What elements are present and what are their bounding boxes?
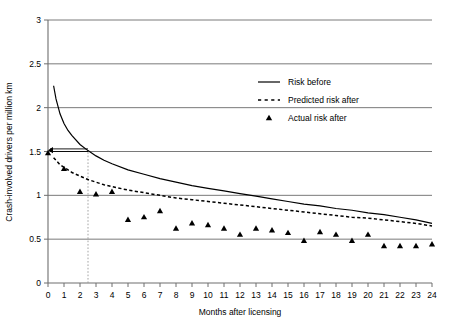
data-point-marker (189, 220, 195, 225)
x-axis-group: 0123456789101112131415161718192021222324 (46, 283, 437, 300)
x-tick-label-21: 21 (379, 290, 389, 300)
data-point-marker (77, 188, 83, 193)
y-tick-label-3: 3 (36, 15, 41, 25)
data-point-marker (93, 191, 99, 196)
chart-canvas: 00.511.522.53 01234567891011121314151617… (0, 0, 453, 325)
x-axis-title-group: Months after licensing (199, 307, 282, 317)
x-tick-label-0: 0 (46, 290, 51, 300)
x-tick-label-12: 12 (235, 290, 245, 300)
data-point-marker (397, 243, 403, 248)
data-point-marker (109, 188, 115, 193)
x-tick-label-11: 11 (220, 290, 229, 300)
legend-label: Risk before (288, 77, 331, 87)
x-tick-label-24: 24 (427, 290, 437, 300)
series-actual-risk-after-markers (45, 150, 435, 248)
x-tick-label-5: 5 (126, 290, 131, 300)
data-point-marker (301, 238, 307, 243)
x-tick-label-13: 13 (251, 290, 261, 300)
data-point-marker (413, 243, 419, 248)
x-tick-label-18: 18 (331, 290, 341, 300)
y-tick-label-2.5: 2.5 (29, 59, 41, 69)
y-axis-title-group: Crash-involved drivers per million km (4, 82, 14, 221)
legend-item-risk-before: Risk before (258, 77, 331, 87)
x-tick-label-6: 6 (142, 290, 147, 300)
series-group (45, 86, 435, 248)
x-tick-label-10: 10 (203, 290, 213, 300)
annotations-group (48, 147, 88, 283)
x-tick-label-3: 3 (94, 290, 99, 300)
data-point-marker (173, 225, 179, 230)
data-point-marker (125, 217, 131, 222)
x-tick-label-23: 23 (411, 290, 421, 300)
x-axis-title: Months after licensing (199, 307, 282, 317)
series-line-risk-before (54, 86, 432, 224)
data-point-marker (365, 231, 371, 236)
data-point-marker (349, 238, 355, 243)
legend-item-actual-risk-after: Actual risk after (266, 113, 347, 123)
x-tick-label-15: 15 (283, 290, 293, 300)
data-point-marker (269, 227, 275, 232)
legend-label: Actual risk after (288, 113, 347, 123)
x-tick-label-14: 14 (267, 290, 277, 300)
data-point-marker (285, 230, 291, 235)
crash-risk-chart: 00.511.522.53 01234567891011121314151617… (0, 0, 453, 325)
x-tick-label-4: 4 (110, 290, 115, 300)
x-tick-label-16: 16 (299, 290, 309, 300)
legend-label: Predicted risk after (288, 95, 359, 105)
y-tick-label-2: 2 (36, 103, 41, 113)
data-point-marker (237, 231, 243, 236)
x-tick-label-7: 7 (158, 290, 163, 300)
y-tick-label-1.5: 1.5 (29, 147, 41, 157)
x-tick-label-22: 22 (395, 290, 405, 300)
data-point-marker (221, 225, 227, 230)
data-point-marker (381, 243, 387, 248)
legend-marker-triangle-icon (266, 115, 272, 121)
x-tick-label-9: 9 (190, 290, 195, 300)
data-point-marker (141, 214, 147, 219)
legend-item-predicted-risk-after: Predicted risk after (258, 95, 359, 105)
y-tick-label-0.5: 0.5 (29, 234, 41, 244)
data-point-marker (317, 229, 323, 234)
x-tick-label-17: 17 (315, 290, 325, 300)
data-point-marker (157, 208, 163, 213)
x-tick-label-8: 8 (174, 290, 179, 300)
y-tick-label-1: 1 (36, 190, 41, 200)
data-point-marker (333, 231, 339, 236)
data-point-marker (429, 241, 435, 246)
data-point-marker (205, 222, 211, 227)
x-tick-label-1: 1 (62, 290, 67, 300)
y-tick-label-0: 0 (36, 278, 41, 288)
x-tick-label-2: 2 (78, 290, 83, 300)
data-point-marker (253, 225, 259, 230)
legend: Risk beforePredicted risk afterActual ri… (258, 77, 359, 123)
y-axis-group: 00.511.522.53 (29, 15, 48, 288)
x-tick-label-19: 19 (347, 290, 357, 300)
y-axis-title: Crash-involved drivers per million km (4, 82, 14, 221)
x-tick-label-20: 20 (363, 290, 373, 300)
gridlines-group (48, 20, 432, 239)
